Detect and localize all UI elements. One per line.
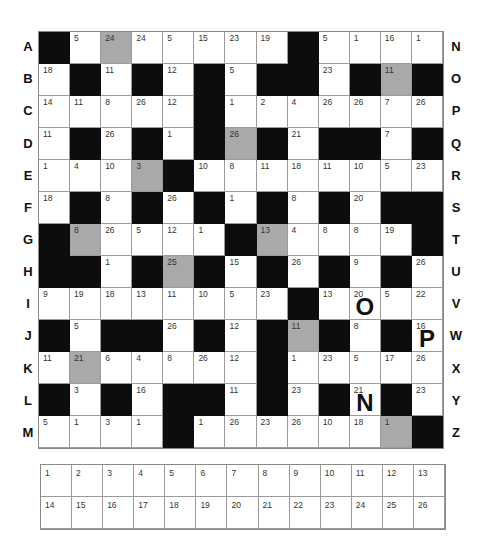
grid-cell[interactable]: 7 xyxy=(381,96,412,128)
grid-cell[interactable]: 1 xyxy=(225,192,256,224)
key-cell-3[interactable]: 3 xyxy=(103,465,134,497)
shaded-grid-cell[interactable]: 11 xyxy=(288,320,319,352)
grid-cell[interactable]: 9 xyxy=(350,256,381,288)
grid-cell[interactable]: 5 xyxy=(70,32,101,64)
key-cell-4[interactable]: 4 xyxy=(134,465,165,497)
grid-cell[interactable]: 3 xyxy=(70,384,101,416)
grid-cell[interactable]: 18 xyxy=(39,192,70,224)
grid-cell[interactable]: 26 xyxy=(288,416,319,448)
grid-cell[interactable]: 26 xyxy=(101,224,132,256)
grid-cell[interactable]: 14 xyxy=(39,96,70,128)
grid-cell[interactable]: 24 xyxy=(132,32,163,64)
shaded-grid-cell[interactable]: 8 xyxy=(70,224,101,256)
grid-cell[interactable]: 26 xyxy=(194,352,225,384)
shaded-grid-cell[interactable]: 1 xyxy=(381,416,412,448)
grid-cell[interactable]: 4 xyxy=(70,160,101,192)
grid-cell[interactable]: 5 xyxy=(319,32,350,64)
grid-cell[interactable]: 4 xyxy=(132,352,163,384)
shaded-grid-cell[interactable]: 25 xyxy=(163,256,194,288)
key-cell-20[interactable]: 20 xyxy=(227,497,258,529)
grid-cell[interactable]: 1 xyxy=(350,32,381,64)
grid-cell[interactable]: 16 xyxy=(132,384,163,416)
grid-cell[interactable]: 1 xyxy=(39,160,70,192)
grid-cell[interactable]: 26 xyxy=(319,96,350,128)
grid-cell[interactable]: 23 xyxy=(319,64,350,96)
grid-cell[interactable]: 1 xyxy=(163,128,194,160)
grid-cell[interactable]: 18 xyxy=(39,64,70,96)
grid-cell[interactable]: 8 xyxy=(101,192,132,224)
grid-cell[interactable]: 23 xyxy=(257,416,288,448)
grid-cell[interactable]: 5 xyxy=(132,224,163,256)
grid-cell[interactable]: 5 xyxy=(381,160,412,192)
grid-cell[interactable]: 19 xyxy=(257,32,288,64)
shaded-grid-cell[interactable]: 24 xyxy=(101,32,132,64)
grid-cell[interactable]: 12 xyxy=(225,352,256,384)
grid-cell[interactable]: 18 xyxy=(288,160,319,192)
grid-cell[interactable]: 13 xyxy=(132,288,163,320)
grid-cell[interactable]: 1 xyxy=(194,224,225,256)
grid-cell[interactable]: 26 xyxy=(225,416,256,448)
grid-cell[interactable]: 10 xyxy=(194,160,225,192)
key-cell-18[interactable]: 18 xyxy=(165,497,196,529)
grid-cell[interactable]: 21 xyxy=(288,128,319,160)
grid-cell[interactable]: 23 xyxy=(319,352,350,384)
grid-cell[interactable]: 20O xyxy=(350,288,381,320)
grid-cell[interactable]: 23 xyxy=(257,288,288,320)
key-cell-25[interactable]: 25 xyxy=(383,497,414,529)
grid-cell[interactable]: 8 xyxy=(101,96,132,128)
grid-cell[interactable]: 1 xyxy=(101,256,132,288)
grid-cell[interactable]: 11 xyxy=(225,384,256,416)
grid-cell[interactable]: 5 xyxy=(381,288,412,320)
grid-cell[interactable]: 7 xyxy=(381,128,412,160)
grid-cell[interactable]: 12 xyxy=(163,96,194,128)
grid-cell[interactable]: 11 xyxy=(70,96,101,128)
grid-cell[interactable]: 23 xyxy=(412,160,443,192)
grid-cell[interactable]: 12 xyxy=(225,320,256,352)
grid-cell[interactable]: 15 xyxy=(194,32,225,64)
grid-cell[interactable]: 11 xyxy=(319,160,350,192)
grid-cell[interactable]: 9 xyxy=(39,288,70,320)
grid-cell[interactable]: 8 xyxy=(350,224,381,256)
grid-cell[interactable]: 4 xyxy=(288,224,319,256)
grid-cell[interactable]: 18 xyxy=(350,416,381,448)
grid-cell[interactable]: 16P xyxy=(412,320,443,352)
grid-cell[interactable]: 5 xyxy=(225,288,256,320)
grid-cell[interactable]: 22 xyxy=(412,288,443,320)
key-cell-11[interactable]: 11 xyxy=(352,465,383,497)
grid-cell[interactable]: 26 xyxy=(163,192,194,224)
grid-cell[interactable]: 26 xyxy=(288,256,319,288)
key-cell-10[interactable]: 10 xyxy=(321,465,352,497)
key-cell-6[interactable]: 6 xyxy=(196,465,227,497)
key-cell-12[interactable]: 12 xyxy=(383,465,414,497)
grid-cell[interactable]: 5 xyxy=(163,32,194,64)
key-cell-13[interactable]: 13 xyxy=(414,465,445,497)
grid-cell[interactable]: 11 xyxy=(39,128,70,160)
grid-cell[interactable]: 6 xyxy=(101,352,132,384)
key-cell-14[interactable]: 14 xyxy=(41,497,72,529)
grid-cell[interactable]: 8 xyxy=(350,320,381,352)
shaded-grid-cell[interactable]: 13 xyxy=(257,224,288,256)
key-cell-24[interactable]: 24 xyxy=(352,497,383,529)
grid-cell[interactable]: 21N xyxy=(350,384,381,416)
grid-cell[interactable]: 8 xyxy=(288,192,319,224)
grid-cell[interactable]: 13 xyxy=(319,288,350,320)
grid-cell[interactable]: 26 xyxy=(101,128,132,160)
grid-cell[interactable]: 23 xyxy=(412,384,443,416)
grid-cell[interactable]: 5 xyxy=(350,352,381,384)
key-cell-21[interactable]: 21 xyxy=(259,497,290,529)
grid-cell[interactable]: 1 xyxy=(70,416,101,448)
grid-cell[interactable]: 8 xyxy=(225,160,256,192)
key-cell-23[interactable]: 23 xyxy=(321,497,352,529)
grid-cell[interactable]: 26 xyxy=(132,96,163,128)
key-cell-2[interactable]: 2 xyxy=(72,465,103,497)
grid-cell[interactable]: 10 xyxy=(194,288,225,320)
key-cell-7[interactable]: 7 xyxy=(227,465,258,497)
key-cell-15[interactable]: 15 xyxy=(72,497,103,529)
grid-cell[interactable]: 26 xyxy=(412,96,443,128)
grid-cell[interactable]: 19 xyxy=(70,288,101,320)
grid-cell[interactable]: 10 xyxy=(101,160,132,192)
grid-cell[interactable]: 11 xyxy=(39,352,70,384)
grid-cell[interactable]: 15 xyxy=(225,256,256,288)
key-cell-17[interactable]: 17 xyxy=(134,497,165,529)
grid-cell[interactable]: 3 xyxy=(101,416,132,448)
